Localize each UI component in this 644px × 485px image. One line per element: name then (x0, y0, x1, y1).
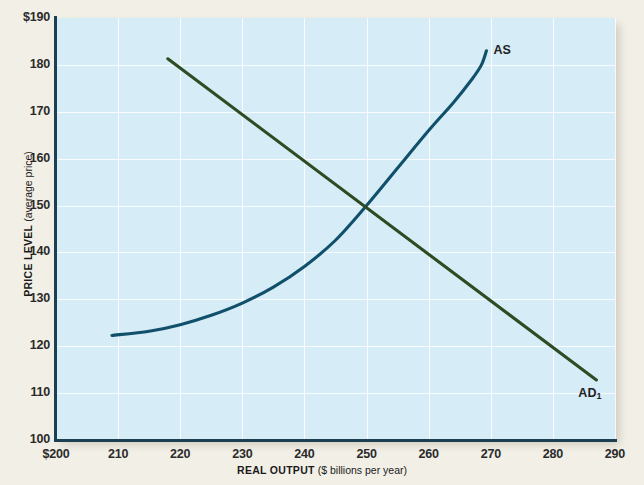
ad-curve (168, 59, 597, 380)
y-axis-title-strong: PRICE LEVEL (22, 225, 34, 297)
x-axis-title: REAL OUTPUT ($ billions per year) (0, 464, 644, 476)
as-curve-label: AS (493, 43, 510, 57)
as-curve (112, 51, 487, 336)
x-axis-title-light: ($ billions per year) (318, 464, 407, 476)
ad-curve-label: AD1 (578, 386, 601, 400)
y-axis-title-light: (average price) (22, 151, 34, 222)
y-axis-title: PRICE LEVEL (average price) (22, 134, 34, 314)
curve-layer (0, 0, 644, 485)
aggregate-supply-demand-chart: 100110120130140150160170180$190 $2002102… (0, 0, 644, 485)
x-axis-title-strong: REAL OUTPUT (237, 464, 315, 476)
